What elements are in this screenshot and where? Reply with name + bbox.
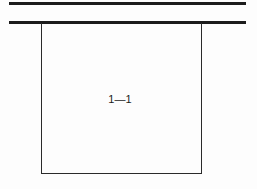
figure-canvas: 1—1 [0,0,257,189]
section-box-label: 1—1 [108,93,132,105]
